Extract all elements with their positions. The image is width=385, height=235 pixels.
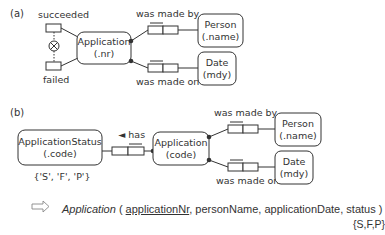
subtype-succeeded-label: succeeded bbox=[38, 9, 89, 20]
svg-text:Date: Date bbox=[206, 57, 229, 68]
svg-text:(mdy): (mdy) bbox=[280, 168, 308, 179]
subtype-succeeded-box bbox=[46, 24, 61, 32]
svg-text:Application: Application bbox=[77, 36, 130, 47]
svg-text:(.name): (.name) bbox=[279, 130, 316, 141]
svg-text:(mdy): (mdy) bbox=[203, 69, 231, 80]
role-box bbox=[148, 64, 163, 72]
other-columns: , personName, applicationDate, status ) bbox=[189, 203, 382, 215]
part-b-label: (b) bbox=[10, 107, 24, 118]
role-box bbox=[228, 125, 243, 133]
subtype-failed-box bbox=[46, 62, 61, 70]
svg-text:(.code): (.code) bbox=[43, 148, 76, 159]
fact-made-on-label-b: was made on bbox=[216, 175, 279, 186]
svg-text:Person: Person bbox=[282, 118, 314, 129]
role-box bbox=[228, 163, 243, 171]
primary-key-column: applicationNr bbox=[126, 203, 190, 215]
svg-text:ApplicationStatus: ApplicationStatus bbox=[18, 136, 101, 147]
status-value-constraint: {'S', 'F', 'P'} bbox=[33, 171, 90, 182]
role-box bbox=[163, 64, 178, 72]
table-name: Application bbox=[62, 203, 116, 215]
role-box bbox=[163, 26, 178, 34]
svg-text:Date: Date bbox=[283, 156, 306, 167]
relational-schema: Application ( applicationNr, personName,… bbox=[62, 203, 382, 215]
svg-text:Application: Application bbox=[154, 137, 207, 148]
role-box bbox=[128, 147, 144, 155]
subtype-failed-label: failed bbox=[43, 74, 69, 85]
role-box bbox=[243, 125, 258, 133]
svg-text:(.nr): (.nr) bbox=[94, 48, 114, 59]
role-box bbox=[112, 147, 128, 155]
role-box bbox=[243, 163, 258, 171]
part-a-label: (a) bbox=[10, 8, 24, 19]
fact-made-by-label-b: was made by bbox=[214, 107, 278, 118]
mapping-arrow-icon bbox=[32, 201, 49, 212]
svg-text:Person: Person bbox=[205, 19, 237, 30]
svg-text:(.name): (.name) bbox=[202, 31, 239, 42]
fact-made-by-label-a: was made by bbox=[136, 8, 200, 19]
fact-made-on-label-a: was made on bbox=[136, 76, 199, 87]
role-box bbox=[148, 26, 163, 34]
fact-has-label: ◄ has bbox=[118, 129, 145, 140]
svg-text:(code): (code) bbox=[166, 149, 196, 160]
status-enum: {S,F,P} bbox=[353, 218, 385, 230]
